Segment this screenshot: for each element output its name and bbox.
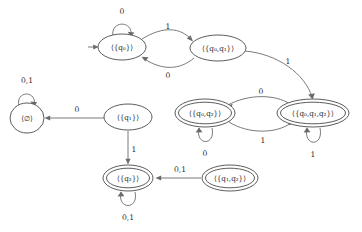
- edge-label: 1: [286, 57, 291, 66]
- edge-path: [245, 51, 312, 97]
- arrow-head: [45, 115, 51, 120]
- edge-label: 1: [261, 136, 266, 145]
- transition-q1-to-q2-1[interactable]: 1: [125, 131, 136, 165]
- state-label: ⟨∅⟩: [21, 114, 33, 123]
- state-label: ⟨{q₂}⟩: [117, 174, 139, 183]
- edge-label: 1: [311, 150, 316, 159]
- transition-q0q1-to-q0-0[interactable]: 0: [142, 57, 195, 80]
- state-node-q1[interactable]: ⟨{q₁}⟩: [104, 104, 152, 130]
- transition-q0q2-self-0[interactable]: 0: [196, 128, 213, 158]
- edge-label: 1: [166, 22, 171, 31]
- transition-q0-to-q0q1-1[interactable]: 1: [142, 22, 193, 42]
- transition-q1-to-empty-0[interactable]: 0: [45, 105, 105, 121]
- arrow-head: [196, 128, 203, 133]
- diagram-canvas: 0 1 0 1 0 0,1: [0, 0, 362, 232]
- arrow-head: [156, 175, 162, 180]
- edge-label: 0,1: [21, 76, 33, 85]
- transition-q0q1q2-self-1[interactable]: 1: [304, 128, 321, 159]
- edge-label: 0: [75, 105, 80, 114]
- state-label: ⟨{q₀}⟩: [111, 43, 133, 52]
- state-node-q0q1[interactable]: ⟨{q₀,q₁}⟩: [190, 35, 246, 61]
- arrow-head: [304, 128, 311, 133]
- edge-label: 0,1: [174, 165, 186, 174]
- start-arrow: [88, 44, 99, 49]
- transition-empty-self-01[interactable]: 0,1: [19, 76, 38, 107]
- edge-label: 0: [259, 87, 264, 96]
- state-node-q2[interactable]: ⟨{q₂}⟩: [103, 165, 153, 191]
- transition-q0q1-to-q0q1q2-1[interactable]: 1: [245, 51, 315, 100]
- transition-q0-self-0[interactable]: 0: [113, 7, 135, 37]
- state-node-q0[interactable]: ⟨{q₀}⟩: [98, 34, 146, 60]
- state-node-empty-set[interactable]: ⟨∅⟩: [10, 103, 44, 133]
- state-node-q0q2[interactable]: ⟨{q₀,q₂}⟩: [175, 99, 235, 127]
- edge-label: 0,1: [122, 213, 134, 222]
- transition-q0q1q2-to-q0q2-0[interactable]: 0: [226, 87, 290, 109]
- state-label: ⟨{q₀,q₂}⟩: [189, 109, 221, 118]
- edge-label: 1: [132, 145, 137, 154]
- state-node-q0q1q2[interactable]: ⟨{q₀,q₁,q₂}⟩: [277, 99, 349, 127]
- transition-q0q2-to-q0q1q2-1[interactable]: 1: [229, 120, 293, 145]
- transition-q1q2-to-q2-01[interactable]: 0,1: [156, 165, 202, 181]
- state-label: ⟨{q₀,q₁}⟩: [202, 44, 234, 53]
- transition-q2-self-01[interactable]: 0,1: [118, 192, 136, 222]
- edge-label: 0: [166, 71, 171, 80]
- state-label: ⟨{q₀,q₁,q₂}⟩: [292, 109, 334, 118]
- edge-label: 0: [203, 149, 208, 158]
- state-label: ⟨{q₁,q₂}⟩: [214, 174, 246, 183]
- edge-path: [143, 58, 194, 67]
- arrow-head: [118, 192, 125, 197]
- state-label: ⟨{q₁}⟩: [117, 113, 139, 122]
- state-diagram: 0 1 0 1 0 0,1: [0, 0, 362, 232]
- arrow-head: [125, 159, 130, 165]
- edge-path: [142, 30, 192, 40]
- edge-path: [229, 122, 291, 131]
- edge-path: [228, 97, 290, 105]
- state-node-q1q2[interactable]: ⟨{q₁,q₂}⟩: [202, 165, 258, 191]
- edge-label: 0: [120, 7, 125, 16]
